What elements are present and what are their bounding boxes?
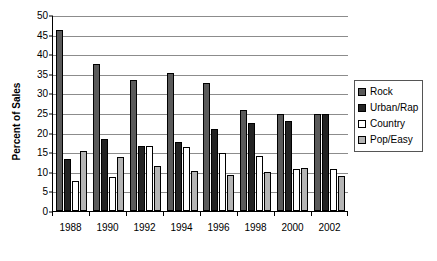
legend-swatch-icon [358, 136, 366, 144]
y-axis-tick-label: 30 [37, 89, 48, 99]
bar [211, 129, 218, 211]
x-axis-tick-label: 1990 [89, 222, 126, 233]
x-axis-tick-mark [52, 212, 53, 216]
bar [191, 171, 198, 211]
x-axis-tick-group: 1994 [163, 212, 200, 246]
legend-label: Urban/Rap [370, 103, 418, 113]
y-axis-tick-label: 45 [37, 31, 48, 41]
plot-area: 05101520253035404550 [52, 16, 348, 212]
bar [248, 123, 255, 211]
y-axis-tick-label: 40 [37, 50, 48, 60]
bar [93, 64, 100, 211]
legend-item[interactable]: Urban/Rap [358, 100, 418, 116]
bar-group [53, 16, 90, 211]
bar-group [90, 16, 127, 211]
x-axis-tick-group: 2002 [311, 212, 348, 246]
bar-group [127, 16, 164, 211]
bar [277, 114, 284, 211]
bar-group [237, 16, 274, 211]
bar [64, 159, 71, 211]
y-axis-title-label: Percent of Sales [12, 82, 23, 160]
bar [154, 166, 161, 211]
bar [264, 172, 271, 211]
x-axis-tick-group: 1998 [237, 212, 274, 246]
bar [117, 157, 124, 211]
legend-swatch-icon [358, 104, 366, 112]
legend-label: Country [370, 119, 405, 129]
x-axis-tick-label: 1994 [163, 222, 200, 233]
legend-swatch-icon [358, 88, 366, 96]
x-axis: 19881990199219941996199820002002 [52, 212, 348, 246]
bar [240, 110, 247, 211]
x-axis-tick-mark [200, 212, 201, 216]
bar [175, 142, 182, 211]
bar [109, 177, 116, 211]
x-axis-tick-label: 2000 [274, 222, 311, 233]
bar-group [201, 16, 238, 211]
bar-group [164, 16, 201, 211]
bar [219, 153, 226, 211]
bar-group [274, 16, 311, 211]
x-axis-tick-mark [89, 212, 90, 216]
bar [146, 146, 153, 211]
y-axis-tick-label: 35 [37, 70, 48, 80]
legend-item[interactable]: Pop/Easy [358, 132, 418, 148]
bar [256, 156, 263, 211]
bar [56, 30, 63, 211]
bar [330, 169, 337, 211]
legend-swatch-icon [358, 120, 366, 128]
bar-group [311, 16, 348, 211]
bar [301, 168, 308, 211]
x-axis-tick-label: 1996 [200, 222, 237, 233]
legend: RockUrban/RapCountryPop/Easy [354, 80, 423, 152]
bar [314, 114, 321, 211]
bar [80, 151, 87, 211]
bar [183, 147, 190, 211]
x-axis-tick-mark [237, 212, 238, 216]
bar [338, 176, 345, 211]
y-axis-tick-label: 20 [37, 129, 48, 139]
x-axis-tick-mark [311, 212, 312, 216]
bar [130, 80, 137, 211]
bar [285, 121, 292, 211]
legend-label: Pop/Easy [370, 135, 413, 145]
y-axis-title: Percent of Sales [8, 46, 26, 196]
x-axis-tick-label: 1988 [52, 222, 89, 233]
x-axis-tick-group: 1988 [52, 212, 89, 246]
bar [138, 146, 145, 211]
bar [167, 73, 174, 211]
bar [101, 139, 108, 211]
bar-chart: Percent of Sales 05101520253035404550 19… [0, 0, 437, 261]
x-axis-tick-label: 2002 [311, 222, 348, 233]
legend-label: Rock [370, 87, 393, 97]
x-axis-tick-group: 1992 [126, 212, 163, 246]
legend-item[interactable]: Country [358, 116, 418, 132]
x-axis-tick-mark [274, 212, 275, 216]
y-axis-tick-label: 15 [37, 148, 48, 158]
x-axis-tick-mark [163, 212, 164, 216]
x-axis-tick-mark [126, 212, 127, 216]
bar [322, 114, 329, 211]
x-axis-tick-label: 1992 [126, 222, 163, 233]
y-axis-tick-label: 25 [37, 109, 48, 119]
x-axis-tick-group: 1996 [200, 212, 237, 246]
bar [293, 169, 300, 211]
legend-item[interactable]: Rock [358, 84, 418, 100]
y-axis-tick-label: 50 [37, 11, 48, 21]
y-axis-tick-label: 0 [42, 207, 48, 217]
x-axis-tick-label: 1998 [237, 222, 274, 233]
x-axis-tick-group: 1990 [89, 212, 126, 246]
bar [72, 181, 79, 211]
bar-groups [53, 16, 348, 211]
y-axis-tick-label: 10 [37, 168, 48, 178]
bar [203, 83, 210, 211]
bar [227, 175, 234, 211]
x-axis-tick-group: 2000 [274, 212, 311, 246]
y-axis-tick-label: 5 [42, 187, 48, 197]
